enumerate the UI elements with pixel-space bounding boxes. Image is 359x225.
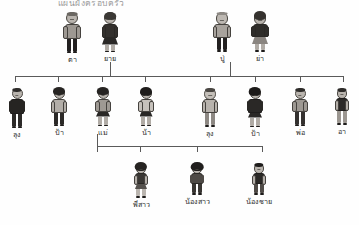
shoe-right: [60, 125, 64, 127]
person-label: ปู่: [205, 53, 239, 64]
leg-left: [67, 39, 71, 52]
person-label: ย่า: [243, 53, 277, 64]
skirt: [252, 37, 268, 44]
arm-left: [102, 26, 107, 38]
torso: [253, 173, 265, 184]
shoe-right: [343, 123, 347, 125]
torso: [253, 24, 268, 37]
mouth-icon: [102, 95, 105, 96]
torso: [103, 24, 117, 38]
shoe-right: [260, 193, 264, 195]
connector-tick: [343, 76, 344, 82]
figure-female-adult: [90, 88, 116, 126]
mouth-icon: [140, 169, 143, 170]
family-tree-diagram: แผนผังครอบครัว ตา: [0, 0, 359, 225]
legs: [197, 113, 223, 125]
shoes: [329, 123, 355, 125]
person-label: ป้า: [42, 127, 76, 138]
figure-female-elder: [247, 12, 273, 52]
leg-left: [141, 117, 145, 125]
person-aunt-maternal-1: ป้า: [42, 88, 76, 138]
legs: [128, 189, 154, 196]
leg-right: [211, 113, 215, 125]
shoes: [246, 193, 272, 195]
leg-right: [256, 118, 260, 126]
shoe-right: [261, 50, 265, 52]
shoe-right: [104, 125, 108, 127]
hair-icon: [205, 88, 215, 91]
connector-tick: [210, 76, 211, 82]
shoes: [209, 50, 235, 52]
head: [54, 88, 65, 99]
arm-right: [227, 26, 232, 38]
arm-right: [149, 101, 154, 112]
connector-tick: [102, 76, 103, 82]
shoe-left: [337, 123, 341, 125]
mouth-icon: [257, 169, 260, 170]
legs: [4, 114, 30, 127]
shoe-left: [255, 50, 259, 52]
shoes: [247, 50, 273, 52]
person-uncle-younger: อา: [325, 88, 359, 137]
arm-right: [345, 100, 350, 111]
leg-left: [54, 113, 58, 125]
connector-tick: [300, 76, 301, 82]
leg-left: [250, 118, 254, 126]
arm-left: [9, 101, 12, 112]
shoe-left: [205, 125, 209, 127]
legs: [46, 113, 72, 125]
figure-female-adult: [133, 88, 159, 126]
person-aunt-maternal-2: น้า: [129, 88, 163, 138]
arm-right: [303, 101, 308, 112]
connector-tick: [197, 146, 198, 152]
connector-tick: [140, 146, 141, 152]
leg-right: [73, 39, 77, 52]
shoes: [4, 127, 30, 129]
head: [66, 12, 78, 24]
page-title: แผนผังครอบครัว: [58, 0, 125, 10]
leg-left: [136, 189, 140, 196]
shoe-left: [141, 125, 145, 127]
connector-tick: [255, 76, 256, 82]
head: [254, 12, 267, 25]
torso: [191, 173, 203, 184]
shoe-right: [142, 196, 146, 198]
arm-right: [63, 101, 68, 113]
connector-main-bar: [15, 76, 343, 77]
leg-left: [98, 117, 102, 125]
hair-icon: [104, 12, 116, 20]
leg-right: [60, 113, 64, 125]
mouth-icon: [258, 20, 262, 21]
shoe-left: [254, 193, 258, 195]
shoe-right: [147, 125, 151, 127]
connector-paternal-drop: [230, 62, 231, 76]
leg-right: [18, 114, 22, 127]
arm-right: [106, 101, 111, 112]
torso: [97, 99, 110, 112]
torso: [203, 99, 217, 113]
arm-left: [63, 26, 68, 39]
shoe-right: [256, 126, 260, 128]
mouth-icon: [15, 95, 18, 96]
person-label: อา: [325, 126, 359, 137]
person-aunt-paternal: ป้า: [238, 88, 272, 139]
leg-left: [254, 184, 258, 193]
arm-left: [292, 101, 297, 112]
head: [12, 88, 23, 99]
legs: [184, 184, 210, 193]
legs: [246, 184, 272, 193]
shoe-left: [217, 50, 221, 52]
shoe-left: [136, 196, 140, 198]
legs: [90, 117, 116, 125]
leg-left: [217, 38, 221, 50]
shoe-left: [98, 125, 102, 127]
shoes: [197, 125, 223, 127]
shoes: [242, 126, 268, 128]
arm-left: [202, 101, 207, 113]
figure-male-adult: [197, 88, 223, 127]
torso: [140, 99, 153, 112]
arm-right: [261, 101, 264, 111]
arm-left: [190, 175, 193, 183]
shoe-right: [301, 125, 305, 127]
person-maternal-grandfather: ตา: [55, 12, 89, 65]
